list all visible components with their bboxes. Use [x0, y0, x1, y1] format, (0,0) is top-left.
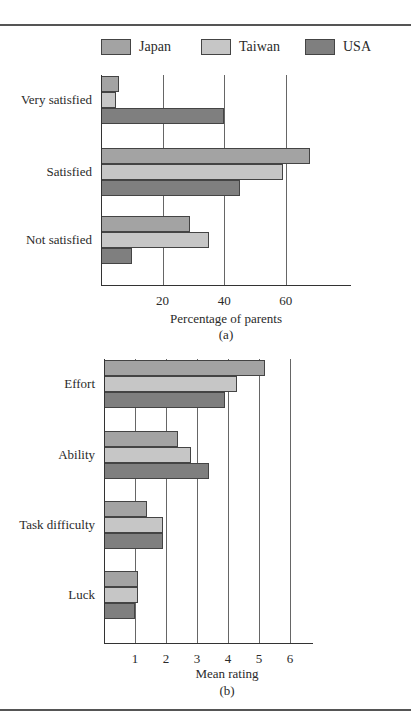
x-tick-label: 3 [194, 651, 201, 667]
bar-effort-japan [104, 360, 265, 376]
x-tick-label: 5 [256, 651, 263, 667]
bar-effort-taiwan [104, 376, 237, 392]
chart-b-x-axis [104, 643, 313, 644]
gridline [228, 359, 229, 643]
bar-task-difficulty-usa [104, 533, 163, 549]
x-tick-label: 2 [163, 651, 170, 667]
x-tick-label: 1 [132, 651, 139, 667]
category-label-ability: Ability [0, 447, 95, 463]
x-tick-label: 6 [287, 651, 294, 667]
gridline [290, 359, 291, 643]
category-label-effort: Effort [0, 376, 95, 392]
category-label-luck: Luck [0, 587, 95, 603]
bar-ability-taiwan [104, 447, 191, 463]
bar-effort-usa [104, 392, 225, 408]
chart-b-panel-label: (b) [219, 683, 234, 699]
bar-ability-japan [104, 431, 178, 447]
chart-b-y-axis [104, 359, 105, 644]
bottom-rule [0, 709, 411, 711]
x-tick-label: 4 [225, 651, 232, 667]
bar-task-difficulty-japan [104, 501, 147, 517]
chart-b-attribution: EffortAbilityTask difficultyLuck 123456 … [0, 0, 411, 723]
gridline [259, 359, 260, 643]
bar-luck-taiwan [104, 587, 138, 603]
bar-task-difficulty-taiwan [104, 517, 163, 533]
chart-b-x-axis-title: Mean rating [195, 666, 258, 682]
bar-ability-usa [104, 463, 209, 479]
bar-luck-japan [104, 571, 138, 587]
bar-luck-usa [104, 603, 135, 619]
category-label-task-difficulty: Task difficulty [0, 517, 95, 533]
